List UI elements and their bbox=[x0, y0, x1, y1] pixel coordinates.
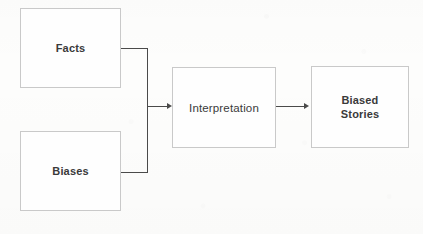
connector-facts-to-junction bbox=[121, 48, 148, 49]
diagram-canvas: Facts Biases Interpretation Biased Stori… bbox=[0, 0, 423, 234]
node-facts-label: Facts bbox=[56, 41, 86, 55]
node-interpretation-label: Interpretation bbox=[189, 101, 259, 115]
arrowhead-into-biased-stories bbox=[304, 103, 309, 109]
connector-interpretation-to-biased-stories bbox=[276, 106, 305, 107]
node-interpretation[interactable]: Interpretation bbox=[172, 67, 276, 148]
node-facts[interactable]: Facts bbox=[20, 8, 121, 88]
node-biases[interactable]: Biases bbox=[20, 131, 121, 211]
node-biased-stories-label: Biased Stories bbox=[341, 93, 379, 121]
connector-merge-vertical bbox=[147, 48, 148, 173]
node-biased-stories[interactable]: Biased Stories bbox=[311, 66, 409, 148]
connector-junction-to-interpretation bbox=[147, 106, 168, 107]
arrowhead-into-interpretation bbox=[167, 103, 172, 109]
node-biases-label: Biases bbox=[52, 164, 88, 178]
connector-biases-to-junction bbox=[121, 172, 148, 173]
